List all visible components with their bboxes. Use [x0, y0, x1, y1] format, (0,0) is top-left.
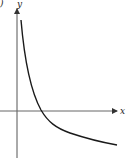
- partial-label: ): [0, 0, 4, 8]
- graph-diagram: ) y x: [0, 0, 137, 160]
- decreasing-curve: [21, 20, 117, 145]
- y-axis-label: y: [16, 0, 23, 9]
- x-axis-label: x: [120, 106, 125, 116]
